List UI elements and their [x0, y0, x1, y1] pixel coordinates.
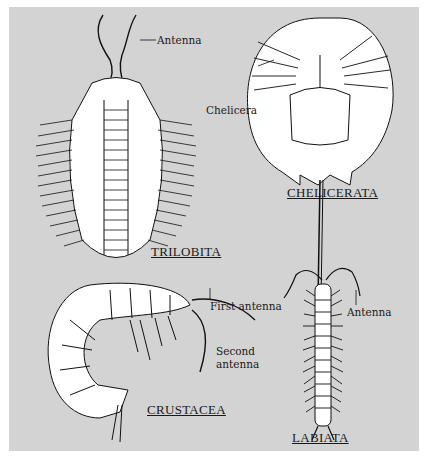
- chelicerata-illustration: [247, 18, 393, 300]
- trilobite-illustration: [36, 15, 196, 258]
- labiata-illustration: [284, 268, 360, 440]
- labiata-antenna-label: Antenna: [347, 306, 392, 318]
- trilobita-antenna-label: Antenna: [157, 34, 202, 46]
- trilobita-title: TRILOBITA: [151, 244, 221, 260]
- second-antenna-label-line1: Second: [216, 345, 255, 357]
- labiata-title: LABIATA: [292, 430, 349, 446]
- crustacea-title: CRUSTACEA: [147, 402, 226, 418]
- chelicerata-title: CHELICERATA: [287, 185, 378, 201]
- second-antenna-label-line2: antenna: [216, 358, 259, 370]
- arthropod-illustrations: [0, 0, 428, 457]
- chelicera-label: Chelicera: [206, 104, 257, 116]
- first-antenna-label: First antenna: [210, 300, 282, 312]
